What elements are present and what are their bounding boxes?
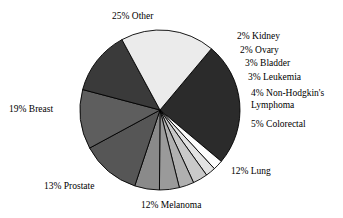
pie-label-other: 25% Other — [112, 11, 153, 23]
pie-label-kidney: 2% Kidney — [237, 31, 280, 43]
pie-label-bladder: 3% Bladder — [245, 58, 290, 70]
pie-label-melanoma: 12% Melanoma — [141, 200, 201, 212]
pie-label-leukemia: 3% Leukemia — [248, 72, 301, 84]
pie-chart-figure: 25% Other 2% Kidney 2% Ovary 3% Bladder … — [0, 0, 343, 218]
pie-label-ovary: 2% Ovary — [240, 45, 279, 57]
pie-label-non-hodgkins-lymphoma: 4% Non-Hodgkin's Lymphoma — [251, 88, 337, 111]
pie-label-colorectal: 5% Colorectal — [251, 119, 306, 131]
pie-label-breast: 19% Breast — [9, 104, 53, 116]
pie-label-lung: 12% Lung — [231, 166, 271, 178]
pie-slice-group — [80, 30, 240, 190]
pie-label-prostate: 13% Prostate — [44, 181, 94, 193]
